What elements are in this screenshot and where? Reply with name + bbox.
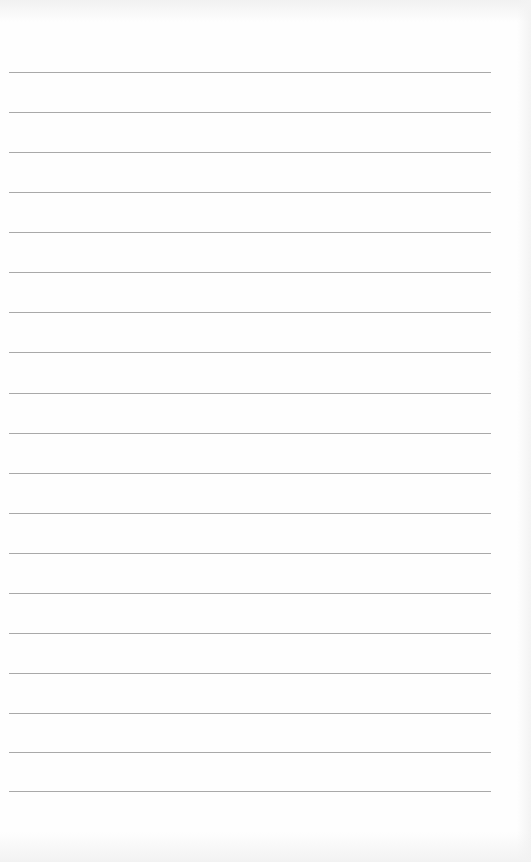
ruled-lines xyxy=(0,0,531,862)
ruled-line xyxy=(9,673,491,674)
ruled-line xyxy=(9,232,491,233)
ruled-line xyxy=(9,272,491,273)
lined-paper-page xyxy=(0,0,531,862)
ruled-line xyxy=(9,433,491,434)
ruled-line xyxy=(9,152,491,153)
ruled-line xyxy=(9,553,491,554)
ruled-line xyxy=(9,192,491,193)
ruled-line xyxy=(9,312,491,313)
ruled-line xyxy=(9,752,491,753)
ruled-line xyxy=(9,593,491,594)
ruled-line xyxy=(9,713,491,714)
ruled-line xyxy=(9,791,491,792)
ruled-line xyxy=(9,393,491,394)
ruled-line xyxy=(9,473,491,474)
ruled-line xyxy=(9,633,491,634)
ruled-line xyxy=(9,112,491,113)
ruled-line xyxy=(9,72,491,73)
ruled-line xyxy=(9,513,491,514)
ruled-line xyxy=(9,352,491,353)
